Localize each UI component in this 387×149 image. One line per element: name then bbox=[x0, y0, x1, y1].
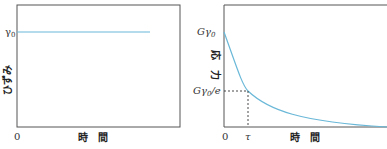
stress-x-origin: 0 bbox=[222, 131, 228, 142]
strain-y-label: ひずみ bbox=[1, 65, 13, 95]
figure: γ0 0 時 間 ひずみ Gγ0 Gγ0/e 0 τ 時 間 応 力 bbox=[0, 0, 387, 149]
stress-x-label: 時 間 bbox=[290, 131, 320, 143]
stress-y-tick-top: Gγ0 bbox=[197, 26, 216, 39]
strain-plot-frame bbox=[17, 5, 180, 127]
strain-y-tick: γ0 bbox=[5, 26, 15, 39]
stress-chart: Gγ0 Gγ0/e 0 τ 時 間 応 力 bbox=[193, 5, 387, 143]
stress-y-tick-mid: Gγ0/e bbox=[193, 85, 221, 98]
strain-x-label: 時 間 bbox=[78, 131, 108, 143]
strain-chart: γ0 0 時 間 ひずみ bbox=[1, 5, 180, 143]
stress-y-label: 応 力 bbox=[210, 50, 222, 80]
strain-x-origin: 0 bbox=[14, 131, 20, 142]
stress-x-tau: τ bbox=[245, 131, 251, 142]
